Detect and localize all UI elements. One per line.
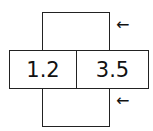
bottom-box — [42, 88, 110, 127]
arrow-left-icon-top: ← — [116, 17, 129, 33]
cell-left-value: 1.2 — [26, 58, 59, 82]
top-box — [42, 12, 110, 51]
cell-left: 1.2 — [9, 50, 77, 89]
cell-right-value: 3.5 — [96, 58, 129, 82]
cell-right: 3.5 — [76, 50, 149, 89]
arrow-left-icon-bottom: ← — [116, 93, 129, 109]
